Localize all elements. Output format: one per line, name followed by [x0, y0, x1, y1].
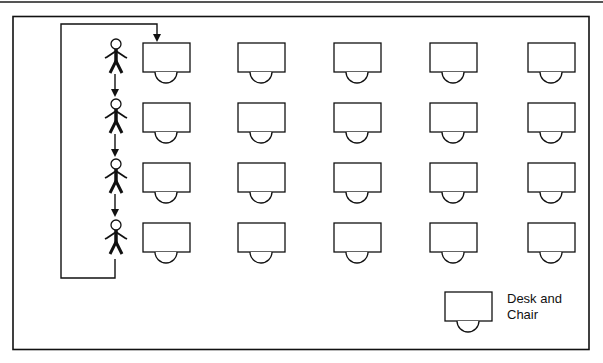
arrow-down-icon: [153, 34, 161, 42]
desk-icon: [430, 103, 477, 143]
desk-grid: [143, 43, 575, 263]
desk-icon: [143, 103, 190, 143]
arrow-down-icon: [111, 89, 119, 97]
arrow-down-icon: [111, 209, 119, 217]
desk-icon: [143, 223, 190, 263]
legend-desk-icon: [445, 292, 492, 332]
arrow-down-icon: [111, 149, 119, 157]
student-figure-icon: [105, 99, 127, 133]
legend-line-2: Chair: [507, 307, 562, 323]
queue-arrows: [111, 74, 119, 217]
desk-icon: [430, 223, 477, 263]
desk-icon: [143, 163, 190, 203]
desk-icon: [528, 223, 575, 263]
desk-icon: [334, 103, 381, 143]
desk-icon: [430, 43, 477, 83]
student-figure-icon: [105, 39, 127, 73]
desk-icon: [430, 163, 477, 203]
classroom-frame: [13, 17, 589, 350]
desk-icon: [238, 223, 285, 263]
desk-icon: [143, 43, 190, 83]
desk-icon: [334, 163, 381, 203]
legend-label: Desk and Chair: [507, 291, 562, 323]
legend-line-1: Desk and: [507, 291, 562, 307]
desk-icon: [238, 43, 285, 83]
student-queue: [105, 39, 127, 254]
desk-icon: [334, 223, 381, 263]
desk-icon: [238, 163, 285, 203]
desk-icon: [528, 103, 575, 143]
desk-icon: [528, 163, 575, 203]
desk-icon: [334, 43, 381, 83]
desk-icon: [528, 43, 575, 83]
desk-icon: [238, 103, 285, 143]
student-figure-icon: [105, 159, 127, 193]
student-figure-icon: [105, 220, 127, 254]
